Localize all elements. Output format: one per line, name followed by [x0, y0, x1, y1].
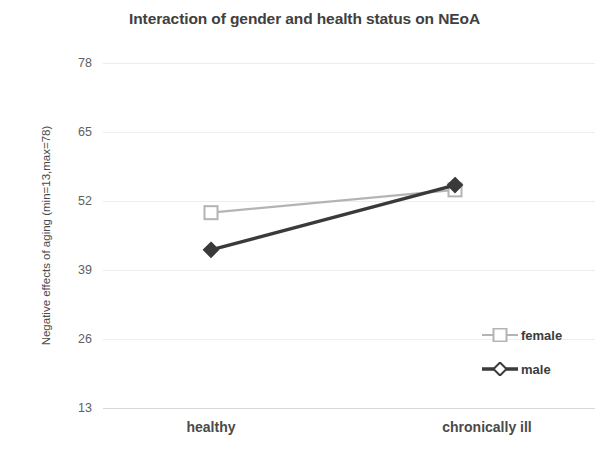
interaction-line-chart: Interaction of gender and health status … — [0, 0, 609, 470]
legend-label-male: male — [521, 362, 551, 377]
male-line — [211, 185, 455, 250]
male-marker-healthy — [204, 243, 218, 257]
female-legend-swatch — [480, 328, 520, 342]
series-male — [204, 178, 462, 257]
series-female — [205, 183, 462, 219]
legend-entry-female[interactable]: female — [480, 318, 600, 352]
male-legend-swatch — [480, 362, 520, 376]
legend-label-female: female — [521, 328, 562, 343]
legend: female male — [480, 318, 600, 386]
series-layer — [0, 0, 609, 470]
legend-entry-male[interactable]: male — [480, 352, 600, 386]
female-marker-healthy — [205, 206, 218, 219]
